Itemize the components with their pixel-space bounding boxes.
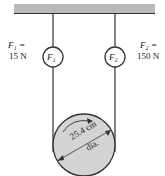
left-force-value: 15 N [9,51,27,61]
right-force-label: F₂ = [140,40,157,50]
diagram-graphics [0,0,165,176]
right-force-value: 150 N [137,51,159,61]
ceiling [14,4,155,13]
left-force-label: F₁ = [8,40,25,50]
right-scale-text: F₂ [109,52,118,62]
pulley-diagram: F₁ = 15 N F₁ F₂ F₂ = 150 N 25.4 cm dia. [0,0,165,176]
left-scale-text: F₁ [47,52,56,62]
